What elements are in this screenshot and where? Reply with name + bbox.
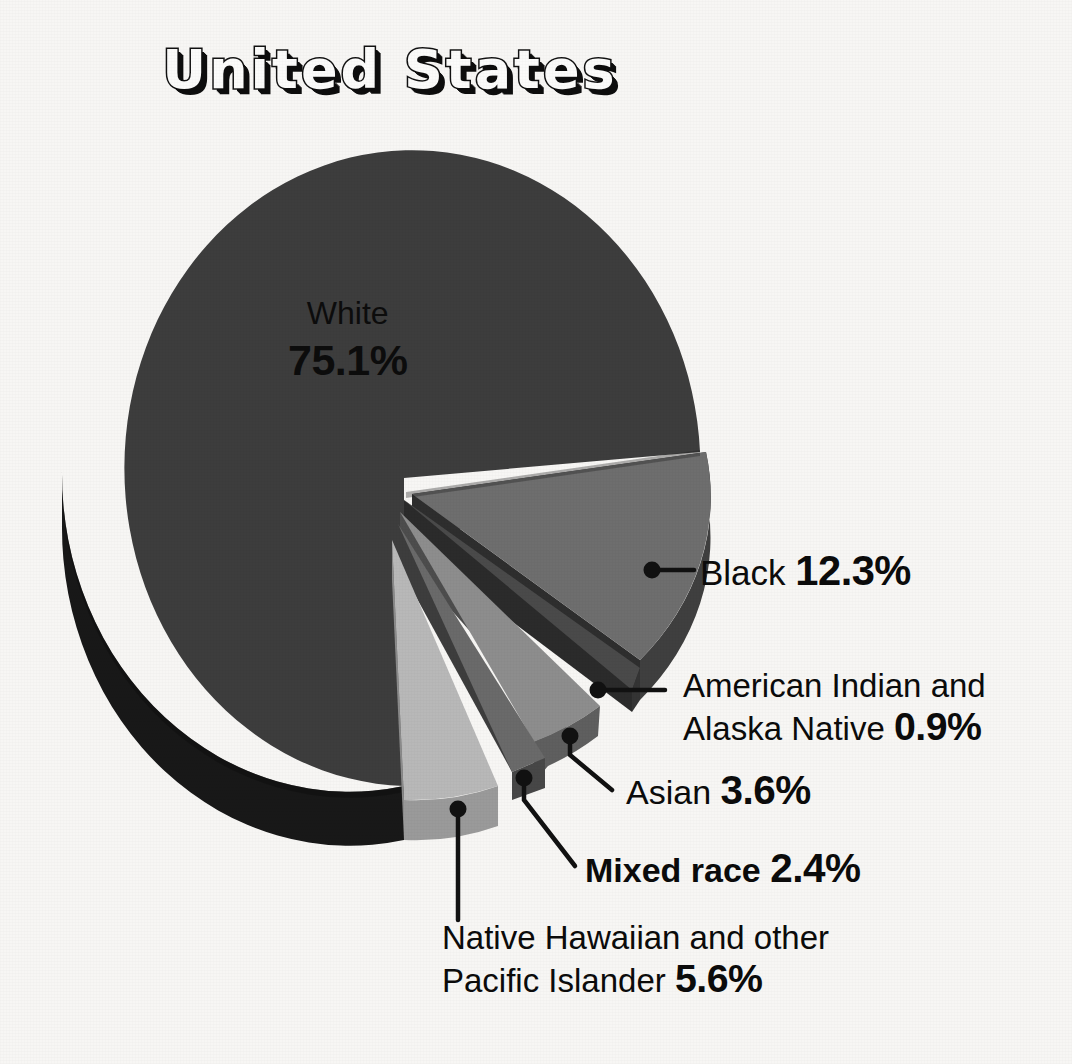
- leader-dot-black: [644, 562, 661, 579]
- slice-label-black: Black 12.3%: [700, 548, 911, 595]
- slice-label-mixed-pct: 2.4%: [770, 845, 860, 891]
- leader-dot-mixed: [516, 770, 533, 787]
- slice-label-asian-pct: 3.6%: [721, 767, 811, 813]
- slice-label-hawaiian-line2: Pacific Islander 5.6%: [442, 957, 829, 1001]
- slice-label-hawaiian-pct: 5.6%: [675, 956, 763, 1000]
- slice-label-asian: Asian 3.6%: [626, 768, 811, 813]
- slice-label-amerindian-name2: Alaska Native: [683, 710, 894, 747]
- slice-label-black-pct: 12.3%: [795, 547, 911, 594]
- slice-label-amerindian-line2: Alaska Native 0.9%: [683, 705, 986, 749]
- leader-dot-asian: [562, 728, 579, 745]
- slice-label-asian-name: Asian: [626, 773, 721, 811]
- slice-label-black-name: Black: [700, 553, 795, 592]
- slice-label-hawaiian-name1: Native Hawaiian and other: [442, 919, 829, 956]
- slice-label-hawaiian-name2: Pacific Islander: [442, 962, 675, 999]
- slice-label-white: White 75.1%: [288, 296, 407, 384]
- pie-chart-graphic: [0, 0, 1072, 1064]
- slice-label-white-pct: 75.1%: [288, 336, 407, 384]
- slice-label-white-name: White: [307, 295, 389, 331]
- slice-label-mixed-race: Mixed race 2.4%: [585, 846, 860, 891]
- slice-label-native-hawaiian-pacific-islander: Native Hawaiian and other Pacific Island…: [442, 920, 829, 1001]
- slice-label-amerindian-pct: 0.9%: [894, 704, 982, 748]
- page-title: United States: [0, 38, 780, 101]
- leader-dot-hawaiian: [450, 801, 467, 818]
- slice-label-amerindian-name1: American Indian and: [683, 667, 986, 704]
- leader-dot-amerindian: [590, 682, 607, 699]
- slice-label-amerindian-line1: American Indian and: [683, 668, 986, 705]
- slice-label-mixed-name: Mixed race: [585, 851, 770, 889]
- slice-label-american-indian-alaska-native: American Indian and Alaska Native 0.9%: [683, 668, 986, 749]
- chart-page: United States White 75.1% Black 12.3% Am…: [0, 0, 1072, 1064]
- slice-label-hawaiian-line1: Native Hawaiian and other: [442, 920, 829, 957]
